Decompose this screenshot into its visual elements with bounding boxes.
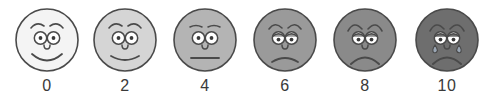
pupil-left — [117, 36, 121, 40]
face-label-6: 6 — [280, 77, 289, 95]
face-label-8: 8 — [360, 77, 369, 95]
faces-pain-rating-scale: 0246810 — [0, 0, 492, 107]
pupil-right — [130, 36, 134, 40]
pupil-left — [439, 38, 443, 42]
face-label-0: 0 — [42, 77, 51, 95]
face-cell-4[interactable]: 4 — [169, 0, 241, 107]
face-label-4: 4 — [200, 77, 209, 95]
face-icon-2 — [89, 5, 161, 75]
pupil-right — [370, 38, 374, 42]
pupil-right — [452, 38, 456, 42]
face-icon-10 — [411, 5, 483, 75]
face-icon-6 — [249, 5, 321, 75]
pupil-left — [39, 36, 43, 40]
face-icon-0 — [11, 5, 83, 75]
face-cell-10[interactable]: 10 — [411, 0, 483, 107]
face-cell-8[interactable]: 8 — [329, 0, 401, 107]
face-cell-0[interactable]: 0 — [11, 0, 83, 107]
pupil-left — [277, 38, 281, 42]
face-icon-4 — [169, 5, 241, 75]
pupil-left — [197, 36, 201, 40]
pupil-left — [357, 38, 361, 42]
face-label-2: 2 — [120, 77, 129, 95]
face-cell-2[interactable]: 2 — [89, 0, 161, 107]
pupil-right — [290, 38, 294, 42]
pupil-right — [52, 36, 56, 40]
face-icon-8 — [329, 5, 401, 75]
face-label-10: 10 — [438, 77, 457, 95]
pupil-right — [210, 36, 214, 40]
face-cell-6[interactable]: 6 — [249, 0, 321, 107]
